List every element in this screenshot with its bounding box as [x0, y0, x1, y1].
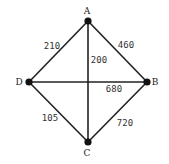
node-C: [84, 138, 91, 145]
node-D: [25, 78, 32, 85]
edge-AB: [88, 21, 147, 82]
node-A: [84, 17, 91, 24]
graph-diagram: 210460200680105720 ABCD: [0, 0, 169, 164]
node-label: A: [83, 6, 91, 16]
edge-weight-label: 460: [118, 40, 134, 50]
edge-weight-label: 680: [106, 84, 122, 94]
edge-weight-label: 105: [42, 113, 58, 123]
edge-weight-label: 720: [117, 118, 133, 128]
edge-AD: [29, 21, 88, 82]
edge-weight-label: 200: [91, 55, 107, 65]
node-label: D: [15, 77, 22, 87]
node-B: [143, 78, 150, 85]
node-label: B: [152, 77, 159, 87]
edge-DC: [29, 82, 88, 142]
node-label: C: [84, 148, 91, 158]
edge-weight-label: 210: [44, 41, 60, 51]
